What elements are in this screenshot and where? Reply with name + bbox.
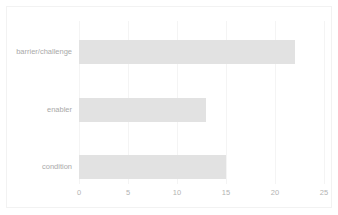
x-tick-label-20: 20 [271, 188, 279, 197]
x-tick-label-10: 10 [173, 188, 181, 197]
plot-area: barrier/challenge enabler condition 0 5 … [79, 21, 324, 184]
bar-enabler[interactable] [79, 98, 206, 122]
gridline-25 [324, 21, 325, 184]
category-label: enabler [47, 98, 72, 122]
x-tick-label-0: 0 [77, 188, 81, 197]
bar-barrier-challenge[interactable] [79, 40, 295, 64]
bar-row: condition [79, 155, 324, 179]
bar-condition[interactable] [79, 155, 226, 179]
category-label: condition [42, 155, 72, 179]
x-tick-label-15: 15 [222, 188, 230, 197]
category-label: barrier/challenge [16, 40, 72, 64]
bar-row: barrier/challenge [79, 40, 324, 64]
bar-chart-figure: barrier/challenge enabler condition 0 5 … [6, 6, 332, 208]
bar-row: enabler [79, 98, 324, 122]
x-tick-label-25: 25 [320, 188, 328, 197]
x-tick-label-5: 5 [126, 188, 130, 197]
